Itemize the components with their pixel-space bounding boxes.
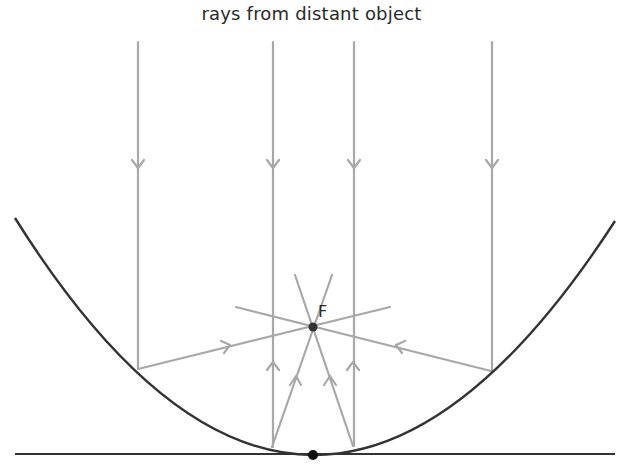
reflected-ray-1 <box>138 307 390 369</box>
vertex-point <box>308 450 318 460</box>
reflected-ray-4 <box>236 307 491 371</box>
focus-label: F <box>318 302 327 321</box>
parabolic-mirror-diagram <box>0 0 623 466</box>
reflected-ray-2 <box>272 275 332 447</box>
focus-point <box>309 323 318 332</box>
left-arrow-icon <box>396 341 405 353</box>
